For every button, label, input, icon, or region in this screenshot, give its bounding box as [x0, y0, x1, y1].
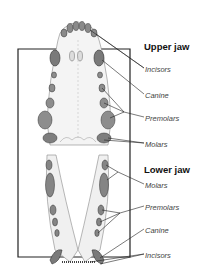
- lower-incisors-label: Incisors: [145, 251, 171, 260]
- lower-molars-label: Molars: [145, 181, 168, 190]
- lower-canine-label: Canine: [145, 226, 169, 235]
- upper-premolars-label: Premolars: [145, 114, 179, 123]
- lower-premolars-label: Premolars: [145, 203, 179, 212]
- upper-canine-label: Canine: [145, 91, 169, 100]
- upper-molars-label: Molars: [145, 140, 168, 149]
- upper-jaw-drawing: [38, 22, 115, 146]
- lower-jaw-drawing: [46, 155, 109, 264]
- upper-incisors-label: Incisors: [145, 65, 171, 74]
- lower-jaw-heading: Lower jaw: [144, 164, 190, 175]
- upper-jaw-heading: Upper jaw: [144, 41, 189, 52]
